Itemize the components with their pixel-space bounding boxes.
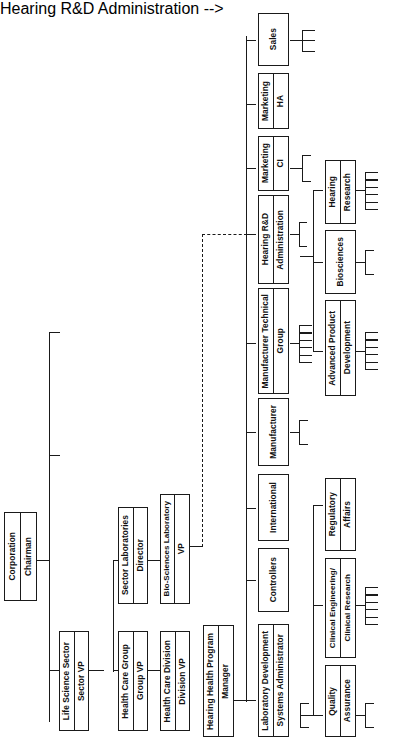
node-hearing-health-program[interactable]: Hearing Health Program Manager: [203, 625, 234, 737]
connector-root-tick-top: [49, 332, 60, 333]
node-regulatory-affairs-line1: Regulatory: [328, 492, 337, 536]
connector-fan-to-manufacturer: [246, 432, 256, 433]
node-quality-assurance-line1: Quality: [328, 687, 337, 716]
connector-hearingrd-fan-spine: [313, 190, 314, 352]
node-hearing-rd-administration-line1: Hearing R&D: [261, 213, 270, 265]
connector-hearingrd-to-fan: [300, 256, 314, 257]
node-biosciences[interactable]: Biosciences: [325, 230, 356, 294]
node-clinical-engineering[interactable]: Clinical Engineering/ Clinical Research: [325, 558, 356, 658]
node-manufacturer[interactable]: Manufacturer: [258, 398, 289, 466]
connector-fan-to-sales: [246, 40, 256, 41]
node-life-science-sector-line1: Life Science Sector: [62, 642, 71, 720]
connector-fan-to-labdev: [246, 700, 256, 701]
connector-labdev-to-qa: [313, 715, 323, 716]
connector-labdev-to-clinicaleng: [313, 605, 323, 606]
node-corporation-line2: Chairman: [24, 537, 33, 576]
node-biosciences-laboratory-line2: VP: [177, 543, 186, 554]
node-quality-assurance-line2: Assurance: [343, 679, 352, 722]
connector-hearinghealth-fan-spine: [246, 36, 247, 702]
connector-labdev-to-fan: [300, 715, 314, 716]
connector-fan-to-controllers: [246, 580, 256, 581]
connector-fan-to-international: [246, 508, 256, 509]
node-manufacturer-technical-group-line1: Manufacturer Technical: [261, 294, 270, 389]
node-quality-assurance[interactable]: Quality Assurance: [325, 665, 356, 737]
node-life-science-sector[interactable]: Life Science Sector Sector VP: [59, 631, 89, 731]
connector-labdev-to-regulatory: [313, 505, 323, 506]
org-chart: Hearing R&D Administration -->: [0, 0, 394, 743]
node-sector-laboratories-line2: Director: [136, 539, 145, 572]
node-laboratory-development[interactable]: Laboratory Development Systems Administr…: [258, 624, 289, 737]
node-hearing-health-program-line1: Hearing Health Program: [206, 633, 215, 730]
node-hearing-research-line2: Research: [343, 173, 352, 211]
node-clinical-engineering-line1: Clinical Engineering/: [329, 568, 338, 648]
node-hearing-research-line1: Hearing: [328, 176, 337, 208]
connector-hearingrd-to-hearingresearch: [313, 190, 323, 191]
node-clinical-engineering-line2: Clinical Research: [344, 574, 353, 642]
connector-corporation-to-spine: [37, 560, 50, 561]
node-manufacturer-line1: Manufacturer: [269, 405, 278, 459]
connector-fan-to-marketingci: [246, 168, 256, 169]
connector-sales-to-comb: [290, 40, 302, 41]
node-health-care-division[interactable]: Health Care Division Division VP: [160, 631, 190, 731]
node-hearing-rd-administration-line2: Administration: [276, 210, 285, 270]
node-international-line1: International: [269, 482, 278, 533]
node-marketing-ci-line1: Marketing: [261, 143, 270, 183]
connector-root-spine: [49, 332, 50, 722]
node-hearing-health-program-line2: Manager: [221, 664, 230, 699]
node-controllers-line1: Controllers: [269, 557, 278, 602]
node-marketing-ha-line1: Marketing: [261, 81, 270, 121]
node-corporation[interactable]: Corporation Chairman: [4, 512, 37, 601]
node-health-care-group-line1: Health Care Group: [121, 644, 130, 719]
node-international[interactable]: International: [258, 474, 289, 541]
node-advanced-product-development-line2: Development: [343, 321, 352, 374]
node-life-science-sector-line2: Sector VP: [77, 661, 86, 701]
node-biosciences-line1: Biosciences: [336, 237, 345, 286]
node-sales[interactable]: Sales: [258, 13, 289, 66]
connector-hcgroup-spine: [113, 560, 114, 672]
dashed-connector-horizontal: [202, 234, 247, 235]
node-biosciences-laboratory-line1: Bio-Sciences Laboratory: [163, 501, 172, 596]
node-manufacturer-technical-group[interactable]: Manufacturer Technical Group: [258, 288, 289, 394]
dashed-connector-vertical: [202, 234, 203, 547]
node-laboratory-development-line2: Systems Administrator: [276, 634, 285, 726]
node-health-care-division-line2: Division VP: [178, 658, 187, 705]
node-hearing-research[interactable]: Hearing Research: [325, 160, 356, 224]
connector-hearingrd-to-advprod: [313, 351, 323, 352]
connector-marketingci-to-comb: [290, 168, 302, 169]
connector-fan-to-marketingha: [246, 104, 256, 105]
node-controllers[interactable]: Controllers: [258, 548, 289, 612]
node-manufacturer-technical-group-line2: Group: [276, 328, 285, 353]
connector-labdev-fan-spine: [313, 505, 314, 716]
node-regulatory-affairs-line2: Affairs: [343, 501, 352, 528]
node-laboratory-development-line1: Laboratory Development: [261, 631, 270, 731]
node-health-care-group[interactable]: Health Care Group Group VP: [118, 631, 148, 731]
node-marketing-ha[interactable]: Marketing HA: [258, 73, 289, 129]
node-corporation-line1: Corporation: [8, 532, 17, 580]
node-regulatory-affairs[interactable]: Regulatory Affairs: [325, 478, 356, 551]
connector-root-tick-mid: [49, 455, 60, 456]
node-health-care-group-line2: Group VP: [136, 661, 145, 700]
node-hearing-rd-administration[interactable]: Hearing R&D Administration: [258, 195, 289, 284]
node-sales-line1: Sales: [269, 28, 278, 50]
node-marketing-ci[interactable]: Marketing CI: [258, 136, 289, 191]
node-marketing-ha-line2: HA: [276, 95, 285, 107]
node-biosciences-laboratory[interactable]: Bio-Sciences Laboratory VP: [160, 494, 190, 604]
node-sector-laboratories[interactable]: Sector Laboratories Director: [118, 507, 148, 604]
node-advanced-product-development[interactable]: Advanced Product Development: [325, 300, 356, 396]
node-sector-laboratories-line1: Sector Laboratories: [121, 515, 130, 595]
node-health-care-division-line1: Health Care Division: [163, 640, 172, 722]
node-marketing-ci-line2: CI: [276, 159, 285, 167]
dashed-connector-stub-to-bioslab: [189, 546, 203, 547]
node-advanced-product-development-line1: Advanced Product: [328, 311, 337, 386]
connector-lifescience-to-hcgroup: [88, 670, 104, 671]
connector-fan-to-mfgtech: [246, 343, 256, 344]
connector-hearingrd-to-biosciences: [313, 262, 323, 263]
connector-fan-to-hearingrd: [246, 234, 256, 235]
